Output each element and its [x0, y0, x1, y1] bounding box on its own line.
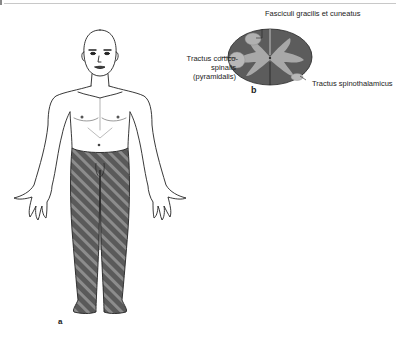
panel-b-letter: b — [251, 85, 257, 95]
panel-a-letter: a — [58, 317, 63, 326]
label-fasciculi-gracilis-cuneatus: Fasciculi gracilis et cuneatus — [265, 9, 360, 18]
label-corticospinal-1: Tractus cortico- — [180, 54, 238, 63]
label-corticospinal-3: (pyramidalis) — [180, 72, 236, 81]
label-corticospinal-2: spinalis — [180, 63, 236, 72]
label-spinothalamic: Tractus spinothalamicus — [312, 79, 393, 88]
